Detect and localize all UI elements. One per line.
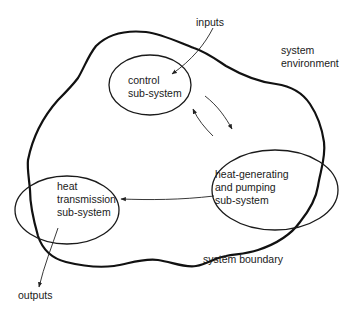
control-label-line1: control: [128, 74, 160, 86]
control-label-line2: sub-system: [128, 87, 182, 99]
heat-generating-subsystem: heat-generating and pumping sub-system: [212, 150, 338, 230]
heat-generating-to-control-arrow: [193, 109, 213, 136]
system-boundary-curve: [28, 32, 325, 267]
heat-transmission-subsystem: heat transmission sub-system: [15, 176, 119, 244]
outputs-label: outputs: [18, 289, 52, 301]
heat-transmission-label-line2: transmission: [57, 193, 116, 205]
system-boundary-label: system boundary: [203, 253, 284, 265]
heat-transmission-label-line3: sub-system: [57, 206, 111, 218]
inputs-to-control-arrow: [172, 28, 213, 74]
heat-transmission-label-line1: heat: [57, 180, 78, 192]
environment-label-line1: system: [281, 44, 315, 56]
heat-generating-to-transmission-arrow: [121, 196, 214, 200]
heat-generating-label-line3: sub-system: [215, 194, 269, 206]
environment-label-line2: environment: [281, 57, 339, 69]
control-subsystem: control sub-system: [109, 55, 191, 115]
control-to-heat-generating-arrow: [205, 96, 232, 129]
system-diagram: control sub-system heat-generating and p…: [0, 0, 359, 318]
inputs-label: inputs: [196, 16, 224, 28]
heat-generating-label-line2: and pumping: [215, 181, 276, 193]
heat-generating-label-line1: heat-generating: [215, 168, 289, 180]
